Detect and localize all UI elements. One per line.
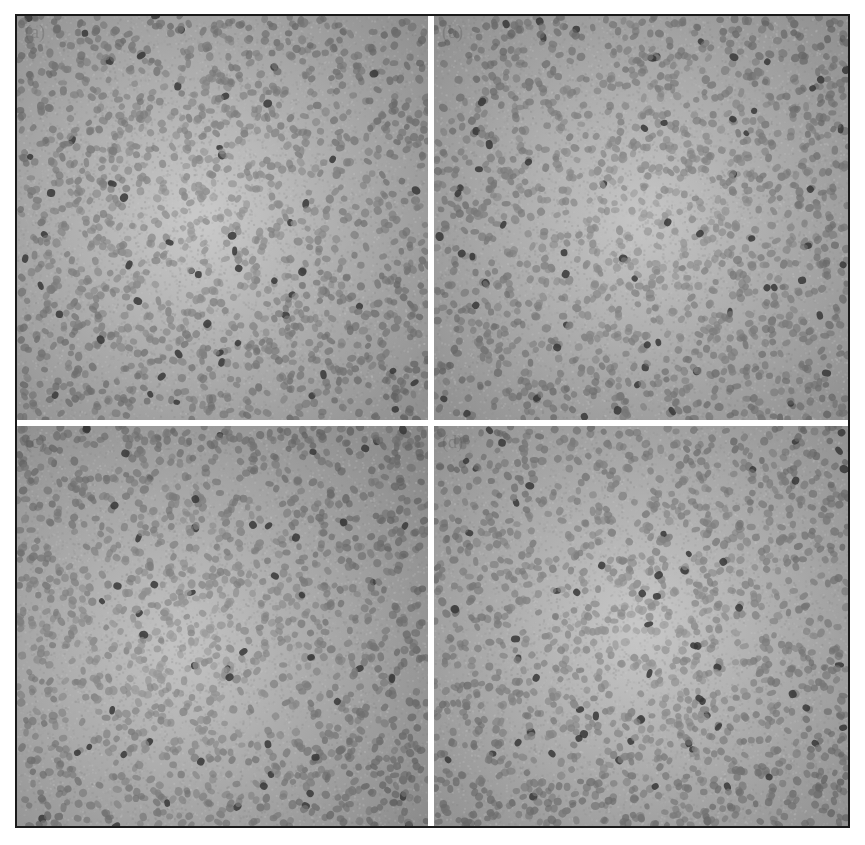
panel-d-label: (d)	[442, 432, 463, 453]
panel-a-label: (a)	[25, 22, 45, 43]
panel-a-image	[17, 16, 428, 420]
panel-d-micrograph: (d)	[434, 426, 848, 826]
panel-a-micrograph: (a)	[17, 16, 428, 420]
panel-c-image	[17, 426, 428, 826]
panel-c-label: (c)	[25, 432, 45, 453]
panel-c-micrograph: (c)	[17, 426, 428, 826]
panel-b-micrograph: (b)	[434, 16, 848, 420]
micrograph-figure: (a) (b) (c) (d)	[15, 14, 850, 828]
panel-b-label: (b)	[442, 22, 463, 43]
panel-d-image	[434, 426, 848, 826]
panel-b-image	[434, 16, 848, 420]
